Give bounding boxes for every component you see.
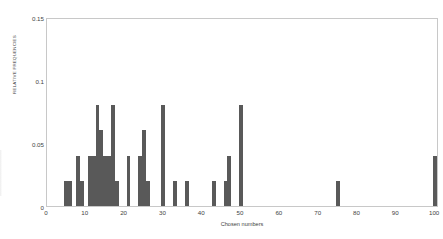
x-tick-label: 20 xyxy=(120,209,127,216)
bar xyxy=(185,181,189,206)
x-tick-label: 100 xyxy=(429,209,439,216)
bar xyxy=(68,181,72,206)
x-tick-label: 60 xyxy=(275,209,282,216)
bars-layer xyxy=(47,19,437,206)
x-tick-label: 90 xyxy=(392,209,399,216)
bar xyxy=(115,181,119,206)
y-tick-label: 0.15 xyxy=(32,15,44,22)
bar xyxy=(146,181,150,206)
bar xyxy=(173,181,177,206)
y-tick-label: 0.1 xyxy=(35,78,44,85)
x-tick-label: 40 xyxy=(198,209,205,216)
x-tick-label: 70 xyxy=(314,209,321,216)
relative-frequency-histogram: RELATIVE FREQUENCIES 00.050.10.15 010203… xyxy=(0,0,443,239)
y-axis-title: RELATIVE FREQUENCIES xyxy=(12,17,17,113)
bar xyxy=(212,181,216,206)
bar xyxy=(227,156,231,206)
x-tick-label: 50 xyxy=(237,209,244,216)
bar xyxy=(80,181,84,206)
y-axis-tick-labels: 00.050.10.15 xyxy=(22,0,44,239)
x-tick-label: 30 xyxy=(159,209,166,216)
y-tick-label: 0.05 xyxy=(32,141,44,148)
plot-area xyxy=(46,18,438,207)
bar xyxy=(239,105,243,206)
x-axis-tick-labels: 0102030405060708090100 xyxy=(46,209,438,221)
x-tick-label: 0 xyxy=(44,209,47,216)
bar xyxy=(161,105,165,206)
x-tick-label: 80 xyxy=(353,209,360,216)
bar xyxy=(336,181,340,206)
bar xyxy=(433,156,437,206)
x-axis-title: Chosen numbers xyxy=(46,221,438,227)
bar xyxy=(127,156,131,206)
x-tick-label: 10 xyxy=(81,209,88,216)
scan-edge-artifact xyxy=(0,150,2,196)
